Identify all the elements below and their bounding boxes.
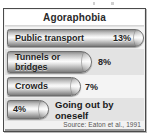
bar-public-transport[interactable]: Public transport 13% bbox=[7, 29, 144, 47]
bar-label: Going out by oneself bbox=[55, 99, 144, 121]
bar-row: 4% Going out by oneself bbox=[5, 98, 144, 121]
bar-label: Crowds bbox=[8, 82, 48, 91]
artifact-speck bbox=[93, 2, 95, 5]
chart-baseline bbox=[5, 129, 144, 131]
bar-value: 4% bbox=[8, 105, 26, 114]
bar-row: Crowds 7% bbox=[5, 75, 144, 98]
bar-crowds[interactable]: Crowds bbox=[7, 77, 81, 96]
image-top-margin bbox=[0, 0, 149, 8]
chart-panel: Agoraphobia Public transport 13% Tunnels… bbox=[3, 8, 146, 132]
bar-label: Public transport bbox=[8, 34, 84, 43]
bar-value: 8% bbox=[98, 57, 111, 67]
bar-value: 13% bbox=[113, 33, 131, 43]
bar-row: Tunnels or bridges 8% bbox=[5, 49, 144, 75]
bar-going-out-by-oneself[interactable]: 4% bbox=[7, 100, 49, 119]
artifact-speck bbox=[111, 2, 114, 5]
bar-label: Tunnels or bridges bbox=[8, 52, 60, 72]
chart-title: Agoraphobia bbox=[5, 10, 144, 25]
bar-row: Public transport 13% bbox=[5, 27, 144, 49]
bar-tunnels-or-bridges[interactable]: Tunnels or bridges bbox=[7, 51, 92, 73]
bar-value: 7% bbox=[85, 82, 98, 92]
